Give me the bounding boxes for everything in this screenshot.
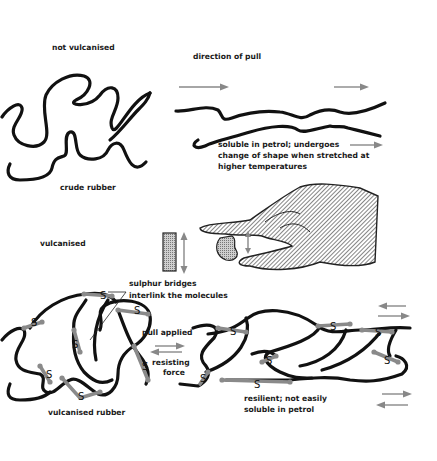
svg-text:S: S bbox=[200, 373, 206, 384]
resilient-caption-line1: resilient; not easily bbox=[244, 393, 327, 404]
diagram-artwork: S S S S S S S bbox=[0, 0, 437, 461]
svg-text:S: S bbox=[134, 305, 140, 316]
svg-text:S: S bbox=[384, 355, 390, 366]
svg-text:S: S bbox=[31, 317, 37, 328]
svg-text:S: S bbox=[100, 290, 106, 301]
svg-text:S: S bbox=[230, 326, 236, 337]
svg-text:S: S bbox=[330, 321, 336, 332]
resisting-force-label-line2: force bbox=[163, 367, 185, 378]
soluble-caption-line2: change of shape when stretched at bbox=[218, 150, 369, 161]
hand-illustration bbox=[200, 184, 378, 269]
crude-rubber-molecules bbox=[2, 75, 150, 180]
not-vulcanised-heading: not vulcanised bbox=[52, 42, 115, 53]
vulcanised-rubber-network: S S S S S S S bbox=[2, 290, 151, 402]
soluble-caption-line1: soluble in petrol; undergoes bbox=[218, 139, 339, 150]
resilient-caption-line2: soluble in petrol bbox=[244, 404, 314, 415]
rubber-sample-block bbox=[163, 232, 188, 274]
crude-rubber-caption: crude rubber bbox=[60, 182, 116, 193]
direction-of-pull-label: direction of pull bbox=[193, 51, 261, 62]
vulcanised-heading: vulcanised bbox=[40, 238, 86, 249]
force-arrows bbox=[150, 343, 185, 356]
svg-text:S: S bbox=[46, 369, 52, 380]
pull-applied-label: pull applied bbox=[142, 327, 192, 338]
svg-text:S: S bbox=[142, 361, 148, 372]
sulphur-bridges-label-line2: interlink the molecules bbox=[129, 290, 228, 301]
sulphur-bridges-label-line1: sulphur bridges bbox=[129, 278, 197, 289]
svg-text:S: S bbox=[78, 391, 84, 402]
svg-text:S: S bbox=[375, 327, 381, 338]
stretched-vulcanised-network: S S S S S S S bbox=[180, 311, 410, 390]
soluble-caption-line3: higher temperatures bbox=[218, 161, 307, 172]
svg-text:S: S bbox=[266, 355, 272, 366]
svg-text:S: S bbox=[72, 339, 78, 350]
vulcanised-rubber-caption: vulcanised rubber bbox=[48, 407, 125, 418]
svg-text:S: S bbox=[254, 379, 260, 390]
